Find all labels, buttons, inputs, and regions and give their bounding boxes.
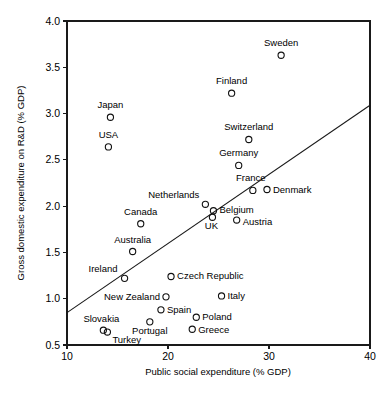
data-point-label: Sweden — [264, 37, 298, 48]
data-point-label: Germany — [219, 147, 258, 158]
data-point-label: Austria — [243, 216, 273, 227]
y-axis-title: Gross domestic expenditure on R&D (% GDP… — [15, 86, 26, 281]
data-point-label: Czech Republic — [177, 270, 244, 281]
data-point-label: Italy — [228, 290, 246, 301]
data-point: Czech Republic — [168, 270, 244, 281]
y-tick-label: 2.0 — [45, 200, 60, 212]
data-point-label: Greece — [198, 324, 229, 335]
x-tick-label: 40 — [364, 350, 376, 362]
data-point: New Zealand — [104, 291, 169, 302]
y-tick-label: 1.5 — [45, 246, 60, 258]
data-point-label: Ireland — [89, 263, 118, 274]
data-point-label: Belgium — [219, 204, 253, 215]
data-point-label: Finland — [216, 75, 247, 86]
data-point-label: Slovakia — [83, 313, 120, 324]
data-point-label: France — [236, 172, 266, 183]
data-point-label: Japan — [97, 99, 123, 110]
data-point-label: Australia — [114, 234, 152, 245]
x-axis-title: Public social expenditure (% GDP) — [145, 366, 291, 377]
y-tick-label: 1.0 — [45, 292, 60, 304]
x-tick-label: 10 — [61, 350, 73, 362]
data-point-label: New Zealand — [104, 291, 160, 302]
scatter-plot-figure: 0.51.01.52.02.53.03.54.0 10203040 Sweden… — [0, 0, 390, 396]
data-point-label: Spain — [167, 304, 191, 315]
data-point-label: Poland — [202, 311, 232, 322]
data-point-label: Canada — [124, 206, 158, 217]
data-point-label: Turkey — [112, 334, 141, 345]
data-point-label: USA — [99, 129, 119, 140]
y-tick-label: 0.5 — [45, 339, 60, 351]
chart-canvas: 0.51.01.52.02.53.03.54.0 10203040 Sweden… — [0, 0, 390, 396]
data-point-label: Netherlands — [148, 189, 199, 200]
x-tick-label: 20 — [162, 350, 174, 362]
data-point-label: UK — [205, 220, 219, 231]
data-point-label: Denmark — [273, 184, 312, 195]
y-tick-label: 2.5 — [45, 153, 60, 165]
y-tick-label: 4.0 — [45, 15, 60, 27]
data-point-label: Switzerland — [224, 121, 273, 132]
x-tick-label: 30 — [263, 350, 275, 362]
y-tick-label: 3.5 — [45, 61, 60, 73]
y-tick-label: 3.0 — [45, 107, 60, 119]
